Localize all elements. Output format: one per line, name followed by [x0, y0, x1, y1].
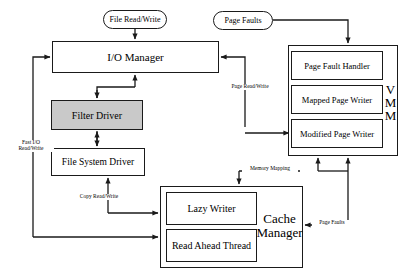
edge-label-text: Page Faults	[319, 219, 345, 225]
edge-io-manager-to-filter-driver	[97, 87, 135, 98]
edge-label-memory-mapping: Memory Mapping	[242, 166, 298, 172]
cache-manager-group-label: Cache Manager	[256, 202, 303, 250]
vmm-letter-m1: M	[385, 96, 397, 109]
node-page-faults-top: Page Faults	[213, 11, 273, 30]
edge-label-text: Copy Read/Write	[80, 193, 118, 199]
node-label: Read Ahead Thread	[172, 240, 251, 251]
vmm-group-label: V M M	[383, 72, 398, 132]
node-lazy-writer: Lazy Writer	[166, 192, 257, 225]
node-label: Filter Driver	[72, 110, 122, 121]
node-io-manager: I/O Manager	[52, 41, 219, 73]
edge-label-fast-io: Fast I/O Read/Write	[8, 140, 54, 152]
node-modified-page-writer: Modified Page Writer	[291, 119, 383, 148]
vmm-letter-v: V	[386, 83, 395, 96]
node-label: Lazy Writer	[188, 203, 236, 214]
edge-label-page-read-write: Page Read/Write	[222, 84, 278, 90]
edge-label-page-faults-cache: Page Faults	[312, 220, 352, 226]
node-label: Mapped Page Writer	[302, 95, 372, 105]
node-read-ahead-thread: Read Ahead Thread	[166, 229, 257, 262]
diagram-canvas: File Read/Write Page Faults I/O Manager …	[0, 0, 412, 277]
cache-label-line1: Cache	[263, 212, 295, 226]
vmm-letter-m2: M	[385, 109, 397, 122]
node-filter-driver: Filter Driver	[51, 100, 143, 130]
node-label: I/O Manager	[107, 51, 164, 63]
node-label: Page Fault Handler	[304, 61, 370, 71]
node-file-system-driver: File System Driver	[51, 148, 145, 176]
node-label: Modified Page Writer	[300, 129, 374, 139]
edge-label-text: Page Read/Write	[231, 83, 268, 89]
edge-page-faults-to-vmm	[273, 20, 348, 43]
node-label: Page Faults	[224, 16, 261, 25]
edge-label-text-line2: Read/Write	[8, 146, 54, 152]
cache-label-line2: Manager	[256, 226, 302, 240]
edge-label-text: Memory Mapping	[250, 165, 290, 171]
node-label: File System Driver	[62, 157, 134, 167]
node-page-fault-handler: Page Fault Handler	[291, 51, 383, 80]
edge-page-read-write-up	[221, 57, 245, 127]
node-label: File Read/Write	[110, 15, 161, 24]
edge-label-copy-read-write: Copy Read/Write	[71, 194, 127, 200]
node-file-read-write: File Read/Write	[103, 10, 167, 29]
node-mapped-page-writer: Mapped Page Writer	[291, 85, 383, 114]
